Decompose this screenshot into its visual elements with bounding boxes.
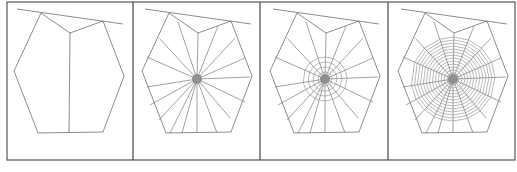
radius-thread: [403, 57, 453, 79]
radius-thread: [287, 38, 325, 79]
radius-thread: [325, 38, 363, 79]
radius-thread: [298, 79, 325, 133]
figure-canvas: [0, 0, 517, 172]
radius-thread: [275, 57, 325, 79]
radius-thread: [170, 79, 197, 133]
radius-thread: [197, 38, 235, 79]
panel-stage-3-auxiliary-spiral: [270, 9, 380, 133]
anchor-thread: [273, 9, 379, 24]
panel-stage-4-capture-spiral: [398, 9, 508, 133]
panel-stage-1-frame: [14, 9, 124, 133]
radius-thread: [159, 38, 197, 79]
radius-thread: [147, 57, 197, 79]
first-radius-thread: [69, 33, 70, 133]
hub: [448, 74, 458, 84]
anchor-thread: [401, 9, 507, 24]
radius-thread: [325, 77, 378, 79]
radius-thread: [197, 77, 250, 79]
hub: [192, 74, 202, 84]
radius-thread: [325, 79, 358, 118]
panel-stage-2-radii: [142, 9, 252, 133]
radius-thread: [453, 77, 506, 79]
panels: [14, 9, 508, 133]
radius-thread: [197, 79, 230, 118]
web-construction-figure: [0, 0, 517, 172]
panel-dividers: [133, 2, 388, 160]
anchor-thread: [145, 9, 251, 24]
anchor-thread: [17, 9, 123, 24]
hub: [320, 74, 330, 84]
radius-thread: [197, 33, 198, 79]
